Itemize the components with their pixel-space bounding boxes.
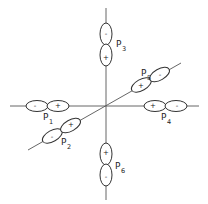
- plus-sign: +: [103, 54, 109, 62]
- orbital-p1: - + P 1: [26, 101, 69, 127]
- diagram-svg: - + P 3 + - P 6 - + P 1 + -: [0, 0, 208, 204]
- orbital-p6: + - P 6: [100, 143, 125, 186]
- orbital-subscript: 5: [147, 74, 151, 82]
- plus-sign: +: [55, 102, 61, 110]
- plus-sign: +: [103, 149, 109, 157]
- orbital-subscript: 6: [121, 167, 125, 175]
- orbital-diagram: - + P 3 + - P 6 - + P 1 + -: [0, 0, 208, 204]
- orbital-subscript: 3: [122, 45, 126, 53]
- orbital-p3: - + P 3: [100, 23, 126, 66]
- orbital-subscript: 2: [67, 143, 71, 151]
- plus-sign: +: [150, 102, 156, 110]
- plus-sign: +: [68, 121, 74, 129]
- orbital-subscript: 1: [49, 118, 53, 126]
- plus-sign: +: [138, 82, 144, 90]
- orbital-subscript: 4: [167, 118, 171, 126]
- orbital-p4: + - P 4: [144, 101, 187, 127]
